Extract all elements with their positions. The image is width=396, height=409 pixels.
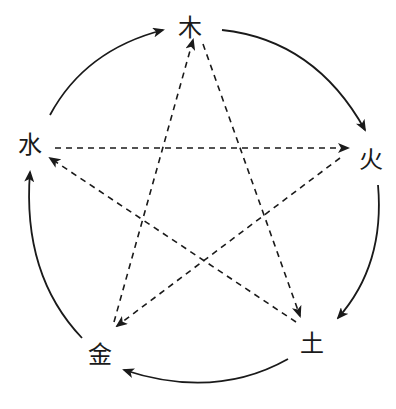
node-water: 水 — [18, 133, 42, 157]
node-wood: 木 — [178, 16, 202, 40]
arrow-metal-to-water — [29, 172, 82, 338]
arrow-fire-to-earth — [338, 185, 379, 318]
controlling-cycle — [50, 40, 348, 326]
wu-xing-diagram — [0, 0, 396, 409]
arrow-earth-to-metal — [124, 359, 288, 383]
arrow-water-to-wood — [50, 30, 163, 115]
dashed-arrow-wood-to-earth — [203, 44, 300, 316]
node-fire: 火 — [359, 148, 383, 172]
dashed-arrow-earth-to-water — [50, 158, 296, 322]
generating-cycle — [29, 30, 379, 383]
dashed-arrow-fire-to-metal — [117, 158, 340, 326]
arrow-wood-to-fire — [222, 30, 365, 130]
dashed-arrow-metal-to-wood — [114, 40, 193, 322]
node-earth: 土 — [300, 332, 324, 356]
node-metal: 金 — [88, 343, 112, 367]
